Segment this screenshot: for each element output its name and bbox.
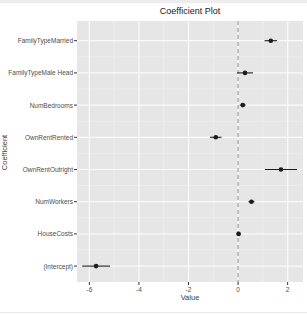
y-tick-label: FamilyTypeMarried — [0, 37, 73, 44]
x-tick-label: -6 — [74, 286, 104, 293]
coefficient-plot-figure: Coefficient Plot Coefficient Value Famil… — [0, 0, 307, 314]
coefficient-point — [240, 103, 245, 108]
coefficient-point — [249, 199, 254, 204]
coefficient-point — [279, 167, 284, 172]
coefficient-point — [213, 135, 218, 140]
x-tick-label: -4 — [124, 286, 154, 293]
y-tick-label: NumBedrooms — [0, 102, 73, 109]
x-tick-label: -2 — [174, 286, 204, 293]
x-tick-label: 0 — [223, 286, 253, 293]
y-tick-label: NumWorkers — [0, 198, 73, 205]
y-tick-label: OwnRentOutright — [0, 166, 73, 173]
plot-panel — [77, 21, 303, 282]
y-tick-label: HouseCosts — [0, 230, 73, 237]
x-tick-label: 2 — [273, 286, 303, 293]
y-tick-label: FamilyTypeMale Head — [0, 69, 73, 76]
y-tick-label: OwnRentRented — [0, 134, 73, 141]
coefficient-point — [236, 232, 241, 237]
y-tick-label: (Intercept) — [0, 263, 73, 270]
coefficient-point — [243, 71, 248, 76]
coefficient-point — [94, 264, 99, 269]
coefficient-point — [268, 38, 273, 43]
